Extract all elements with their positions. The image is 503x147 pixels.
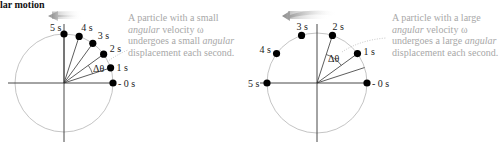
time-label: 4 s <box>81 22 93 33</box>
caption-line-4: displacement each second. <box>392 47 498 59</box>
caption-line-2: angular velocity ω <box>392 24 498 36</box>
caption-line-3: undergoes a small angular <box>128 35 234 47</box>
time-label: 2 s <box>110 43 122 54</box>
left-caption: A particle with a small angular velocity… <box>128 12 234 58</box>
left-panel: Δθ - 0 s1 s2 s3 s4 s5 s <box>8 11 135 142</box>
time-label: 3 s <box>98 30 110 41</box>
time-label: 5 s <box>50 22 62 33</box>
particle-dot <box>76 33 83 40</box>
time-label: 4 s <box>260 44 272 55</box>
caption-line-1: A particle with a small <box>128 12 234 24</box>
right-panel: Δθ - 0 s1 s2 s3 s4 s5 s <box>248 11 389 142</box>
particle-dot <box>107 64 114 71</box>
time-label: 3 s <box>297 21 309 32</box>
particle-dot <box>100 51 107 58</box>
particle-dot <box>60 30 67 37</box>
time-label: - 0 s <box>372 78 389 89</box>
caption-line-3: undergoes a large angular <box>392 35 498 47</box>
caption-line-1: A particle with a large <box>392 12 498 24</box>
particle-dot <box>273 50 280 57</box>
time-label: 2 s <box>332 21 344 32</box>
time-label: - 0 s <box>118 78 135 89</box>
angle-arc <box>88 65 92 73</box>
particle-dot <box>354 50 361 57</box>
time-label: 1 s <box>363 46 375 57</box>
particle-dot <box>298 32 305 39</box>
particle-dots: - 0 s1 s2 s3 s4 s5 s <box>50 22 135 89</box>
caption-line-4: displacement each second. <box>128 47 234 59</box>
radius-line <box>64 43 93 83</box>
time-label: 5 s <box>248 78 260 89</box>
radius-line <box>64 36 79 83</box>
radius-line <box>317 68 365 83</box>
right-caption: A particle with a large angular velocity… <box>392 12 498 58</box>
particle-dot <box>89 40 96 47</box>
time-label: 1 s <box>117 62 129 73</box>
delta-theta-label: Δθ <box>328 53 339 64</box>
delta-theta-label: Δθ <box>93 63 104 74</box>
particle-dot <box>363 79 370 86</box>
particle-dot <box>329 32 336 39</box>
caption-line-2: angular velocity ω <box>128 24 234 36</box>
radius-lines <box>317 35 365 83</box>
particle-dot <box>109 79 116 86</box>
particle-dot <box>263 79 270 86</box>
